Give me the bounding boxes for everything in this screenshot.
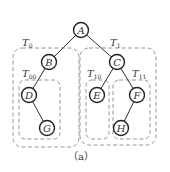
svg-text:A: A xyxy=(76,25,84,36)
group-label-t00: T00 xyxy=(22,68,36,80)
svg-text:H: H xyxy=(116,123,126,134)
figure-caption: （a） xyxy=(68,151,94,162)
svg-text:B: B xyxy=(44,57,52,68)
group-label-t10: T10 xyxy=(87,68,101,80)
tree-diagram: T0 T1 T00 T10 T11 A B C D G xyxy=(0,0,170,172)
node-d: D xyxy=(22,88,37,103)
svg-text:E: E xyxy=(92,90,101,101)
group-label-t1: T1 xyxy=(110,37,121,49)
svg-text:F: F xyxy=(133,90,142,101)
edges xyxy=(29,30,137,128)
node-c: C xyxy=(110,55,125,70)
node-h: H xyxy=(114,121,129,136)
node-g: G xyxy=(40,121,55,136)
node-a: A xyxy=(74,23,89,38)
node-b: B xyxy=(42,55,57,70)
svg-text:G: G xyxy=(43,123,51,134)
group-label-t11: T11 xyxy=(132,68,146,80)
svg-text:D: D xyxy=(24,90,33,101)
node-e: E xyxy=(90,88,105,103)
group-label-t0: T0 xyxy=(22,37,33,49)
node-f: F xyxy=(130,88,145,103)
svg-text:C: C xyxy=(113,57,121,68)
